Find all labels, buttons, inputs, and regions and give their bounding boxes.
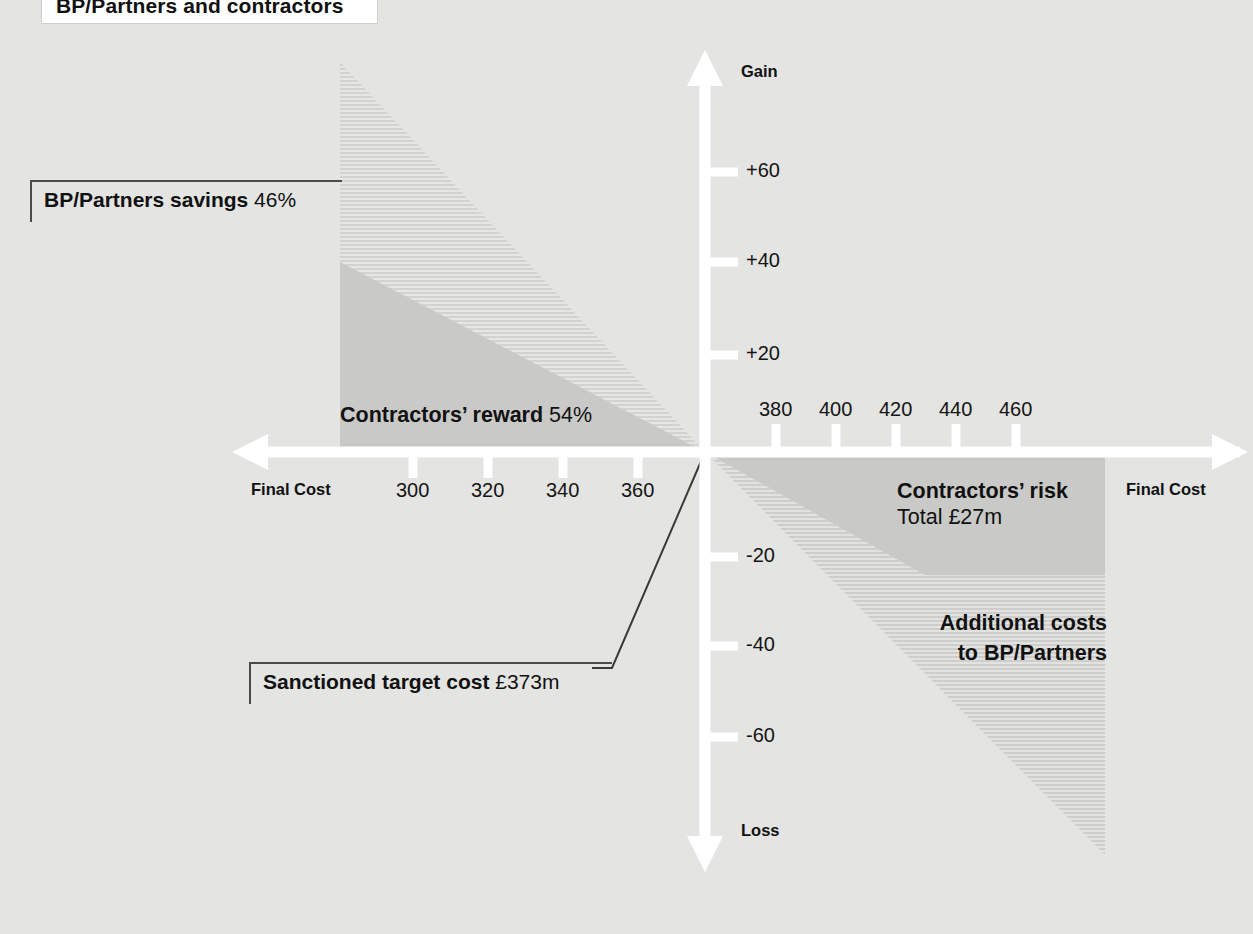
y-tick-label-minus20: -20 [746, 544, 775, 567]
region-label-contractors-risk-total: Total £27m [897, 504, 1068, 530]
page-title: BP/Partners and contractors [56, 0, 343, 19]
x-tick-label-380: 380 [759, 398, 792, 421]
y-tick-label-minus60: -60 [746, 724, 775, 747]
x-tick-label-340: 340 [546, 479, 579, 502]
region-label-additional-costs-line2: to BP/Partners [860, 638, 1107, 668]
region-label-additional-costs-line1: Additional costs [860, 608, 1107, 638]
region-label-contractors-reward-value: 54% [543, 403, 592, 427]
x-tick-label-400: 400 [819, 398, 852, 421]
down-axis-arrowhead [687, 836, 723, 872]
axis-label-final-cost-left: Final Cost [251, 480, 331, 499]
axis-label-final-cost-right: Final Cost [1126, 480, 1206, 499]
chart-graphic [0, 0, 1253, 934]
region-label-contractors-reward: Contractors’ reward 54% [340, 403, 592, 428]
axis-label-gain: Gain [741, 62, 778, 81]
x-tick-label-300: 300 [396, 479, 429, 502]
x-tick-label-320: 320 [471, 479, 504, 502]
right-axis-arrowhead [1212, 434, 1248, 470]
callout-sanctioned-target-cost-value: £373m [489, 670, 559, 693]
x-tick-label-360: 360 [621, 479, 654, 502]
up-axis-arrowhead [687, 50, 723, 86]
y-tick-label-plus60: +60 [746, 159, 780, 182]
region-label-contractors-risk-strong: Contractors’ risk [897, 478, 1068, 504]
callout-bp-partners-savings-value: 46% [248, 188, 296, 211]
y-tick-label-plus40: +40 [746, 249, 780, 272]
callout-bp-partners-savings: BP/Partners savings 46% [30, 180, 342, 222]
axis-label-loss: Loss [741, 821, 780, 840]
x-tick-label-440: 440 [939, 398, 972, 421]
callout-bp-partners-savings-strong: BP/Partners savings [44, 188, 248, 211]
region-label-contractors-reward-strong: Contractors’ reward [340, 403, 543, 427]
callout-sanctioned-target-cost-strong: Sanctioned target cost [263, 670, 489, 693]
x-tick-label-460: 460 [999, 398, 1032, 421]
x-tick-label-420: 420 [879, 398, 912, 421]
y-tick-label-plus20: +20 [746, 342, 780, 365]
chart-canvas: BP/Partners and contractors Gain Loss Fi… [0, 0, 1253, 934]
callout-sanctioned-target-cost: Sanctioned target cost £373m [249, 662, 612, 704]
title-box: BP/Partners and contractors [41, 0, 378, 24]
y-tick-label-minus40: -40 [746, 633, 775, 656]
region-label-contractors-risk: Contractors’ risk Total £27m [897, 478, 1068, 530]
region-label-additional-costs: Additional costs to BP/Partners [860, 608, 1107, 668]
left-axis-arrowhead [232, 434, 268, 470]
